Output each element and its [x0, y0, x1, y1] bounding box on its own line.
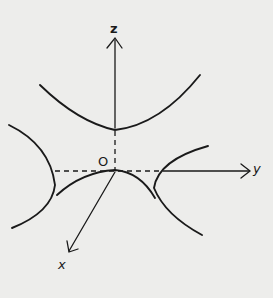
y-axis-label: y — [253, 162, 261, 175]
right-hyperbola-branch — [154, 146, 208, 235]
upper-parabola — [40, 75, 200, 130]
diagram-drawing — [0, 0, 273, 298]
y-axis — [55, 164, 250, 178]
z-axis — [107, 38, 122, 170]
central-arch — [57, 170, 155, 198]
x-axis-label: x — [58, 258, 66, 271]
left-hyperbola-branch — [9, 125, 55, 228]
diagram-canvas: z y x O — [0, 0, 273, 298]
z-axis-label: z — [110, 22, 118, 35]
x-axis-arrowhead-icon — [67, 241, 78, 252]
x-axis — [67, 172, 115, 252]
origin-label: O — [98, 155, 108, 168]
